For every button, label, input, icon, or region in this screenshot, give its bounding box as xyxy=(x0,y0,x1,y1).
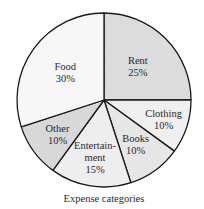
slice-label-books: Books10% xyxy=(122,133,149,156)
slice-label-rent: Rent25% xyxy=(128,55,148,78)
chart-caption: Expense categories xyxy=(64,193,145,204)
slice-label-other: Other10% xyxy=(46,123,70,146)
slice-label-food: Food30% xyxy=(55,61,77,84)
pie-chart: Rent25%Clothing10%Books10%Entertain-ment… xyxy=(0,0,204,209)
